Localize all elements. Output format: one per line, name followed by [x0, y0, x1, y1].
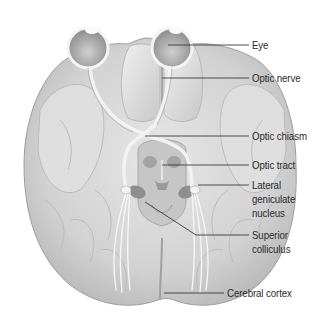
label-optic-tract: Optic tract — [252, 158, 295, 172]
label-superior-colliculus: Superior colliculus — [252, 228, 290, 256]
label-optic-chiasm: Optic chiasm — [252, 129, 307, 143]
label-cerebral-cortex: Cerebral cortex — [227, 286, 292, 300]
label-eye: Eye — [252, 38, 268, 52]
label-optic-nerve: Optic nerve — [252, 71, 301, 85]
label-lateral-geniculate-nucleus: Lateral geniculate nucleus — [252, 178, 295, 220]
